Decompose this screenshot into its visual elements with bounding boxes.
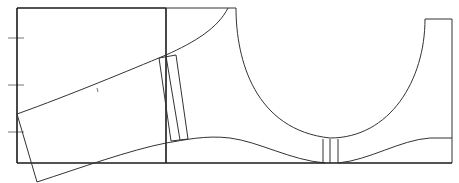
pattern-svg (0, 0, 459, 183)
bottom-hem-curve-left (166, 137, 325, 163)
pattern-diagram (0, 0, 459, 183)
left-tick-marks (8, 38, 24, 132)
concave-cutout-curve (236, 8, 425, 138)
bottom-hem-curve-right (338, 138, 452, 163)
notch-mark (97, 88, 98, 92)
top-curve (17, 8, 228, 114)
right-tab (425, 19, 452, 163)
tilted-overlay-piece (17, 114, 166, 182)
slanted-band (159, 55, 188, 141)
center-bottom-band (323, 139, 338, 163)
